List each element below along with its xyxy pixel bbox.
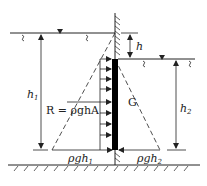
left-water-surface	[10, 29, 115, 41]
net-pressure-distribution	[100, 59, 111, 150]
h2-dimension: h2	[167, 61, 192, 150]
resultant-label: R = ρghA	[46, 104, 100, 117]
gate-label: G	[128, 96, 137, 109]
h2-label: h2	[180, 102, 192, 116]
pressure-left-label: ρgh1	[67, 152, 93, 166]
h-dimension: h	[121, 33, 143, 57]
pressure-right-label: ρgh2	[136, 152, 163, 166]
hydrostatic-diagram: h h1 h2 R = ρghA	[0, 0, 207, 186]
right-pressure-triangle	[115, 59, 160, 150]
wave-icon	[86, 35, 88, 41]
gate	[112, 59, 118, 150]
left-pressure-triangle	[52, 33, 115, 150]
right-water-surface	[118, 55, 195, 67]
wave-icon	[189, 61, 191, 67]
ground	[8, 165, 200, 171]
h-label: h	[136, 40, 143, 53]
wave-icon	[22, 35, 24, 41]
h1-dimension: h1	[27, 35, 48, 150]
h1-label: h1	[27, 88, 39, 102]
wave-icon	[143, 61, 145, 67]
resultant-force: R = ρghA	[46, 102, 111, 117]
